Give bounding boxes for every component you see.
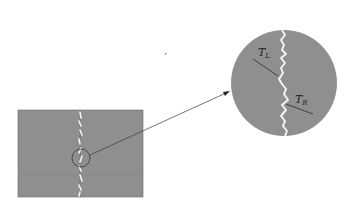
diagram-canvas: TL TR: [0, 0, 353, 207]
specimen: [18, 110, 143, 197]
speck: [165, 53, 167, 55]
magnifier: TL TR: [231, 30, 337, 136]
arrowhead-icon: [223, 91, 230, 96]
